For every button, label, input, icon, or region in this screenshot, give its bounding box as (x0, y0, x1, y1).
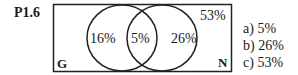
option-c: c) 53% (243, 54, 284, 71)
region-only-n: 26% (171, 31, 197, 47)
region-outside: 53% (200, 8, 226, 24)
option-a: a) 5% (243, 20, 284, 37)
set-label-g: G (57, 56, 67, 72)
region-only-g: 16% (90, 31, 116, 47)
set-label-n: N (218, 55, 227, 71)
answer-options: a) 5% b) 26% c) 53% (243, 20, 284, 71)
option-b: b) 26% (243, 37, 284, 54)
region-intersection: 5% (131, 31, 150, 47)
